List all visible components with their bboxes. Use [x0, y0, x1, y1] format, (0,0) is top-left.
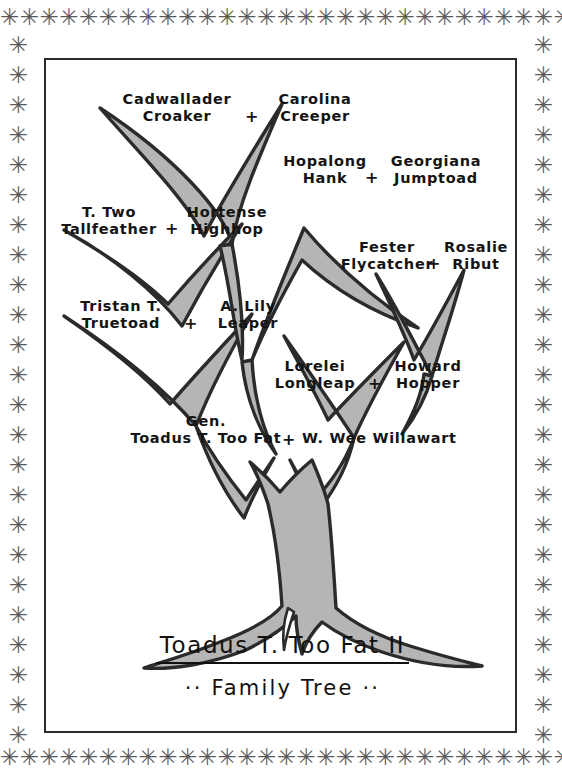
page-subtitle: ·· Family Tree ·· [46, 676, 519, 700]
family-tree-page: ✳✳✳✳✳✳✳✳✳✳✳✳✳✳✳✳✳✳✳✳✳✳✳✳✳✳✳✳✳✳✳ ✳✳✳✳✳✳✳✳… [0, 0, 562, 775]
person-name-line1: Georgiana [391, 153, 481, 169]
decorative-border-right: ✳✳✳✳✳✳✳✳✳✳✳✳✳✳✳✳✳✳✳✳✳✳✳✳ [528, 30, 559, 746]
person-name-line1: T. Two [82, 204, 136, 220]
border-motif-icon: ✳ [3, 570, 34, 600]
person-name-line1: Fester [359, 239, 415, 255]
border-motif-icon: ✳ [528, 300, 559, 330]
border-motif-icon: ✳ [528, 690, 559, 720]
border-motif-icon: ✳ [528, 60, 559, 90]
border-motif-icon: ✳ [3, 720, 34, 746]
person-name-line1: Gen. [186, 413, 226, 429]
border-motif-icon: ✳ [3, 480, 34, 510]
border-motif-icon: ✳ [3, 120, 34, 150]
border-motif-icon: ✳ [528, 240, 559, 270]
border-motif-icon: ✳ [528, 150, 559, 180]
border-motif-icon: ✳ [528, 270, 559, 300]
person-name-line2: Truetoad [62, 315, 180, 332]
border-motif-icon: ✳ [528, 30, 559, 60]
border-motif-icon: ✳ [3, 660, 34, 690]
union-plus-5: + [184, 316, 197, 332]
border-motif-icon: ✳ [528, 630, 559, 660]
border-motif-icon: ✳ [3, 450, 34, 480]
person-label-georgiana-jumptoad: Georgiana Jumptoad [376, 153, 496, 187]
person-name-line1: Carolina [278, 91, 351, 107]
decorative-border-bottom: ✳✳✳✳✳✳✳✳✳✳✳✳✳✳✳✳✳✳✳✳✳✳✳✳✳✳✳✳✳✳✳ [0, 742, 562, 773]
border-motif-icon: ✳ [3, 180, 34, 210]
person-label-rosalie-ribut: Rosalie Ribut [426, 239, 526, 273]
border-motif-icon: ✳ [528, 210, 559, 240]
border-motif-icon: ✳ [3, 630, 34, 660]
person-label-a-lily-leaper: A. Lily Leaper [198, 298, 298, 332]
border-motif-icon: ✳ [528, 120, 559, 150]
illustration-frame: Cadwallader Croaker + Carolina Creeper H… [44, 58, 517, 733]
border-motif-icon: ✳ [528, 480, 559, 510]
border-motif-icon: ✳ [528, 510, 559, 540]
border-motif-icon: ✳ [528, 180, 559, 210]
border-motif-icon: ✳ [3, 90, 34, 120]
border-motif-icon: ✳ [528, 420, 559, 450]
union-plus-7: + [282, 432, 295, 448]
border-motif-icon: ✳ [528, 360, 559, 390]
border-motif-icon: ✳ [3, 150, 34, 180]
person-label-howard-hopper: Howard Hopper [376, 358, 480, 392]
border-motif-icon: ✳ [3, 270, 34, 300]
person-name-line1: Howard [394, 358, 461, 374]
border-motif-icon: ✳ [3, 300, 34, 330]
person-name-line2: Hopper [376, 375, 480, 392]
person-name-line2: Creeper [240, 108, 390, 125]
border-motif-icon: ✳ [528, 720, 559, 746]
border-motif-icon: ✳ [528, 570, 559, 600]
border-motif-icon: ✳ [3, 210, 34, 240]
border-motif-icon: ✳ [3, 60, 34, 90]
border-motif-icon: ✳ [528, 600, 559, 630]
person-name-line2: Ribut [426, 256, 526, 273]
border-motif-icon: ✳ [3, 420, 34, 450]
person-label-gen-toadus-too-fat: Gen. Toadus T. Too Fat [106, 413, 306, 447]
person-name-line1: Cadwallader [123, 91, 232, 107]
border-motif-icon: ✳ [528, 330, 559, 360]
person-label-lorelei-longleap: Lorelei Longleap [258, 358, 372, 392]
border-motif-icon: ✳ [3, 360, 34, 390]
page-title: Toadus T. Too Fat II [156, 632, 409, 664]
person-name-line2: Leaper [198, 315, 298, 332]
person-name-line1: Hortense [187, 204, 267, 220]
person-label-carolina-creeper: Carolina Creeper [240, 91, 390, 125]
person-label-w-wee-willawart: W. Wee Willawart [302, 430, 492, 447]
person-name-line2: Hank [270, 170, 380, 187]
border-motif-icon: ✳ [528, 90, 559, 120]
person-name-line2: Croaker [102, 108, 252, 125]
person-name-line2: Jumptoad [376, 170, 496, 187]
border-motif-icon: ✳ [528, 390, 559, 420]
person-label-hortense-highhop: Hortense Highhop [172, 204, 282, 238]
decorative-border-top: ✳✳✳✳✳✳✳✳✳✳✳✳✳✳✳✳✳✳✳✳✳✳✳✳✳✳✳✳✳✳✳ [0, 2, 562, 33]
border-motif-icon: ✳ [3, 30, 34, 60]
border-motif-icon: ✳ [3, 540, 34, 570]
border-motif-icon: ✳ [528, 660, 559, 690]
person-name-line1: Tristan T. [80, 298, 161, 314]
person-name-line1: A. Lily [220, 298, 276, 314]
title-block: Toadus T. Too Fat II ·· Family Tree ·· [46, 632, 519, 700]
person-label-t-two-tallfeather: T. Two Tallfeather [50, 204, 168, 238]
person-name-line2: Tallfeather [50, 221, 168, 238]
border-motif-icon: ✳ [3, 390, 34, 420]
person-name-line2: W. Wee Willawart [302, 430, 457, 446]
border-motif-icon: ✳ [3, 240, 34, 270]
border-motif-icon: ✳ [3, 690, 34, 720]
person-name-line1: Rosalie [444, 239, 508, 255]
border-motif-icon: ✳ [528, 450, 559, 480]
border-motif-icon: ✳ [528, 540, 559, 570]
border-motif-icon: ✳ [3, 600, 34, 630]
border-motif-icon: ✳ [3, 510, 34, 540]
person-name-line1: Lorelei [285, 358, 346, 374]
decorative-border-left: ✳✳✳✳✳✳✳✳✳✳✳✳✳✳✳✳✳✳✳✳✳✳✳✳ [3, 30, 34, 746]
border-motif-icon: ✳ [3, 330, 34, 360]
person-name-line2: Longleap [258, 375, 372, 392]
person-label-hopalong-hank: Hopalong Hank [270, 153, 380, 187]
person-label-tristan-truetoad: Tristan T. Truetoad [62, 298, 180, 332]
person-label-cadwallader-croaker: Cadwallader Croaker [102, 91, 252, 125]
person-name-line2: Toadus T. Too Fat [106, 430, 306, 447]
person-name-line2: Highhop [172, 221, 282, 238]
person-name-line1: Hopalong [283, 153, 367, 169]
